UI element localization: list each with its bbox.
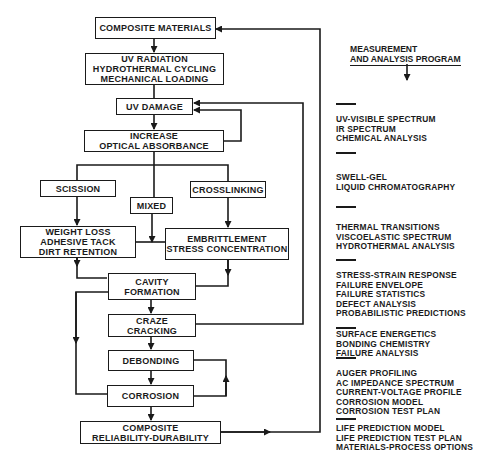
measurement-group-thermal: THERMAL TRANSITIONS VISCOELASTIC SPECTRU… [336, 223, 455, 252]
measurement-item: MATERIALS-PROCESS OPTIONS [336, 443, 473, 453]
node-label: ADHESIVE TACK [40, 237, 115, 247]
node-label: DEBONDING [123, 356, 180, 366]
node-label: HYDROTHERMAL CYCLING [93, 64, 216, 74]
node-embrittlement: EMBRITTLEMENT STRESS CONCENTRATION [165, 228, 289, 260]
node-label: MIXED [137, 201, 167, 211]
node-label: DIRT RETENTION [39, 247, 117, 257]
node-label: STRESS CONCENTRATION [167, 244, 288, 254]
node-label: UV RADIATION [121, 54, 188, 64]
measurement-group-swell: SWELL-GEL LIQUID CHROMATOGRAPHY [336, 173, 455, 192]
header-line: MEASUREMENT [350, 44, 461, 54]
node-label: EMBRITTLEMENT [187, 234, 267, 244]
measurement-item: CHEMICAL ANALYSIS [336, 134, 436, 144]
measurement-item: CORROSION TEST PLAN [336, 407, 462, 417]
group-divider [336, 259, 356, 261]
measurement-item: FAILURE ANALYSIS [336, 349, 436, 359]
node-reliability-durability: COMPOSITE RELIABILITY-DURABILITY [80, 421, 221, 444]
group-divider [336, 418, 356, 420]
node-stressors: UV RADIATION HYDROTHERMAL CYCLING MECHAN… [85, 53, 224, 85]
node-optical-absorbance: INCREASE OPTICAL ABSORBANCE [84, 130, 224, 152]
measurement-program-header: MEASUREMENT AND ANALYSIS PROGRAM [350, 44, 461, 66]
node-weight-loss: WEIGHT LOSS ADHESIVE TACK DIRT RETENTION [20, 226, 136, 258]
node-label: CROSSLINKING [192, 185, 263, 195]
measurement-item: HYDROTHERMAL ANALYSIS [336, 242, 455, 252]
node-composite-materials: COMPOSITE MATERIALS [95, 17, 216, 39]
node-label: CAVITY [135, 277, 169, 287]
measurement-item: PROBABILISTIC PREDICTIONS [336, 309, 466, 319]
node-scission: SCISSION [40, 180, 116, 197]
node-label: WEIGHT LOSS [45, 227, 110, 237]
measurement-group-stress: STRESS-STRAIN RESPONSE FAILURE ENVELOPE … [336, 271, 466, 319]
header-line: AND ANALYSIS PROGRAM [350, 54, 461, 66]
node-corrosion: CORROSION [107, 385, 194, 407]
group-divider [336, 206, 356, 208]
node-uv-damage: UV DAMAGE [116, 98, 193, 115]
node-label: INCREASE [130, 131, 178, 141]
node-label: CRACKING [127, 326, 177, 336]
node-label: RELIABILITY-DURABILITY [92, 433, 209, 443]
node-label: CRAZE [136, 316, 168, 326]
measurement-group-corrosion: AUGER PROFILING AC IMPEDANCE SPECTRUM CU… [336, 369, 462, 417]
node-label: OPTICAL ABSORBANCE [99, 141, 209, 151]
node-label: UV DAMAGE [126, 102, 183, 112]
measurement-item: LIQUID CHROMATOGRAPHY [336, 183, 455, 193]
node-label: COMPOSITE MATERIALS [99, 23, 211, 33]
node-label: CORROSION [122, 391, 179, 401]
measurement-group-surface: SURFACE ENERGETICS BONDING CHEMISTRY FAI… [336, 330, 436, 359]
node-crosslinking: CROSSLINKING [190, 181, 266, 198]
node-label: COMPOSITE [123, 423, 179, 433]
measurement-group-uv: UV-VISIBLE SPECTRUM IR SPECTRUM CHEMICAL… [336, 115, 436, 144]
node-label: SCISSION [56, 184, 101, 194]
node-cavity-formation: CAVITY FORMATION [108, 273, 196, 300]
measurement-group-life: LIFE PREDICTION MODEL LIFE PREDICTION TE… [336, 424, 473, 453]
node-debonding: DEBONDING [108, 350, 194, 371]
group-divider [336, 103, 356, 105]
node-label: MECHANICAL LOADING [101, 74, 209, 84]
group-divider [336, 152, 356, 154]
node-label: FORMATION [124, 287, 180, 297]
node-mixed: MIXED [130, 197, 173, 214]
node-craze-cracking: CRAZE CRACKING [108, 314, 196, 337]
